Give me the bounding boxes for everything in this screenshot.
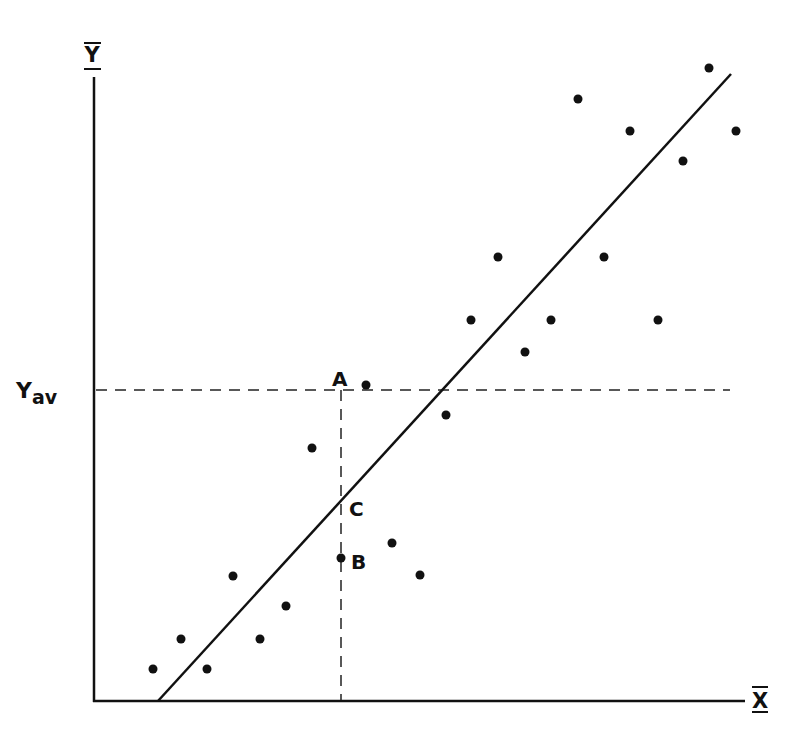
data-point [308, 444, 317, 453]
data-point [494, 253, 503, 262]
x-axis-label: X [752, 687, 768, 713]
data-point [362, 381, 371, 390]
point-b-label: B [351, 550, 366, 574]
regression-line [158, 74, 731, 701]
data-point [654, 316, 663, 325]
data-point [149, 665, 158, 674]
data-points [149, 64, 741, 674]
data-point [388, 539, 397, 548]
data-point [416, 571, 425, 580]
data-point [177, 635, 186, 644]
data-point [732, 127, 741, 136]
data-point [442, 411, 451, 420]
point-a-label: A [332, 367, 348, 391]
data-point [705, 64, 714, 73]
data-point [256, 635, 265, 644]
point-c-label: C [349, 497, 364, 521]
y-axis-label: Y [83, 43, 101, 69]
regression-diagram: Y X Yav A C B [0, 0, 801, 750]
data-point [282, 602, 291, 611]
data-point [679, 157, 688, 166]
data-point [337, 554, 346, 563]
y-average-label: Yav [15, 378, 58, 408]
data-point [626, 127, 635, 136]
y-average-subscript: av [32, 386, 58, 408]
y-axis-label-text: Y [83, 43, 100, 67]
data-point [600, 253, 609, 262]
data-point [574, 95, 583, 104]
data-point [521, 348, 530, 357]
data-point [229, 572, 238, 581]
data-point [467, 316, 476, 325]
data-point [547, 316, 556, 325]
x-axis-label-text: X [752, 689, 768, 713]
data-point [203, 665, 212, 674]
